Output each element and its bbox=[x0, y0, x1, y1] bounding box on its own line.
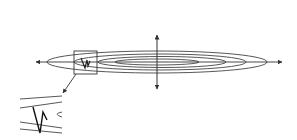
inset-pointer-arrow bbox=[63, 74, 76, 93]
inset-magnified-view bbox=[20, 96, 62, 133]
contour-diagram bbox=[0, 0, 297, 140]
diagram-canvas: Elongated elliptical contour lines with … bbox=[0, 0, 297, 140]
zigzag-path-large bbox=[33, 107, 47, 133]
